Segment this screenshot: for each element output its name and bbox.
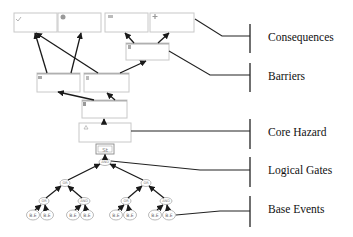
- gate-label: OR: [123, 199, 129, 203]
- label-base-events: Base Events: [268, 203, 325, 215]
- gate-low-2[interactable]: AND: [78, 198, 90, 205]
- consequence-box-1[interactable]: [14, 13, 57, 32]
- gate-label: AND: [101, 160, 109, 164]
- base-event[interactable]: B.E: [124, 210, 137, 220]
- money-icon: [108, 15, 113, 18]
- gate-label: OR: [62, 181, 68, 185]
- consequence-box-2[interactable]: [58, 13, 101, 32]
- label-core-hazard: Core Hazard: [268, 126, 327, 138]
- base-event[interactable]: B.E: [110, 210, 123, 220]
- gate-label: OR: [41, 199, 47, 203]
- barrier-icon: [38, 76, 42, 79]
- label-barriers: Barriers: [268, 70, 306, 82]
- svg-text:B.E: B.E: [29, 213, 37, 218]
- barrier-icon: [86, 76, 89, 80]
- barrier-box-right[interactable]: [126, 43, 169, 60]
- gate-low-3[interactable]: OR: [121, 198, 131, 205]
- svg-text:B.E: B.E: [69, 213, 77, 218]
- globe-icon: [61, 15, 66, 20]
- core-hazard-box[interactable]: [79, 123, 131, 142]
- base-event[interactable]: B.E: [67, 210, 80, 220]
- consequence-box-4[interactable]: [150, 13, 194, 32]
- gate-label: AND: [80, 199, 88, 203]
- base-event[interactable]: B.E: [27, 210, 40, 220]
- barrier-icon: [128, 45, 131, 49]
- label-consequences: Consequences: [268, 31, 334, 44]
- barrier-icon: [83, 102, 86, 106]
- gate-mid-right[interactable]: OR: [141, 180, 151, 187]
- base-event[interactable]: B.E: [41, 210, 54, 220]
- gate-low-1[interactable]: OR: [39, 198, 49, 205]
- barrier-box-2[interactable]: [84, 73, 129, 92]
- bowtie-diagram: St AND OR OR OR AND OR AND B.E B.E B.E B…: [0, 0, 353, 237]
- base-event[interactable]: B.E: [81, 210, 94, 220]
- top-event-symbol[interactable]: St: [96, 144, 114, 154]
- gate-mid-left[interactable]: OR: [60, 180, 70, 187]
- svg-text:B.E: B.E: [165, 213, 173, 218]
- svg-text:B.E: B.E: [126, 213, 134, 218]
- barrier-box-1[interactable]: [37, 73, 80, 92]
- label-logical-gates: Logical Gates: [268, 164, 333, 177]
- gate-low-4[interactable]: AND: [160, 198, 172, 205]
- base-events-row: B.E B.E B.E B.E B.E B.E B.E B.E: [27, 210, 176, 220]
- svg-text:B.E: B.E: [83, 213, 91, 218]
- barrier-box-3[interactable]: [82, 100, 127, 118]
- svg-text:B.E: B.E: [151, 213, 159, 218]
- base-event[interactable]: B.E: [163, 210, 176, 220]
- base-event[interactable]: B.E: [149, 210, 162, 220]
- svg-text:B.E: B.E: [43, 213, 51, 218]
- svg-text:B.E: B.E: [112, 213, 120, 218]
- gate-label: AND: [162, 199, 170, 203]
- consequence-box-3[interactable]: [105, 13, 148, 32]
- top-event-label: St: [102, 147, 108, 153]
- gate-label: OR: [143, 181, 149, 185]
- gate-top[interactable]: AND: [99, 159, 111, 166]
